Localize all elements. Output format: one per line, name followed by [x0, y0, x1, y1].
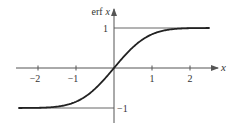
labels: −2−1121−1xerfx — [30, 6, 226, 114]
erf-chart: −2−1121−1xerfx — [0, 0, 234, 128]
x-tick-label: −1 — [68, 73, 79, 84]
y-axis-label: erfx — [91, 6, 110, 17]
x-tick-label: −2 — [30, 73, 41, 84]
y-axis-label-var: x — [105, 6, 111, 17]
y-tick-label: −1 — [117, 103, 128, 114]
x-tick-label: 2 — [188, 73, 193, 84]
y-tick-label: 1 — [103, 23, 108, 34]
y-axis-label-fn: erf — [91, 6, 103, 17]
x-axis-label: x — [220, 61, 226, 73]
x-tick-label: 1 — [150, 73, 155, 84]
